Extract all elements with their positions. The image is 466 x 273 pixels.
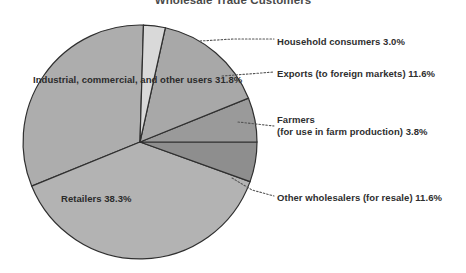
callout-label-farmers: Farmers (for use in farm production) 3.8… (277, 114, 428, 137)
callout-label-exports: Exports (to foreign markets) 11.6% (277, 68, 435, 80)
pie-chart: Wholesale Trade Customers Indus (0, 0, 466, 273)
callout-label-farmers-line1: Farmers (277, 114, 315, 125)
slice-label-industrial-line1: Industrial, commercial, (33, 74, 138, 85)
callout-label-household: Household consumers 3.0% (277, 36, 405, 48)
slice-label-retailers: Retailers 38.3% (61, 193, 131, 206)
pie-slices (23, 25, 257, 259)
slice-label-industrial: Industrial, commercial, and other users … (33, 74, 242, 87)
callout-label-farmers-line2: (for use in farm production) 3.8% (277, 126, 428, 138)
callout-label-exports-line1: Exports (to foreign markets) 11.6% (277, 68, 435, 79)
leader-line-household (200, 39, 274, 41)
callout-label-other-wholesalers: Other wholesalers (for resale) 11.6% (277, 192, 442, 204)
callout-label-household-line1: Household consumers 3.0% (277, 36, 405, 47)
slice-label-retailers-line1: Retailers 38.3% (61, 193, 131, 204)
slice-label-industrial-line2: and other users 31.8% (140, 74, 242, 85)
callout-label-other-wholesalers-line1: Other wholesalers (for resale) 11.6% (277, 192, 442, 203)
